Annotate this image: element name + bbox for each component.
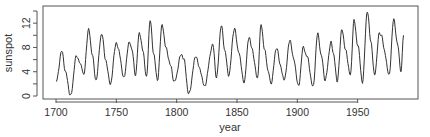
x-tick-label: 1800 (165, 106, 189, 118)
x-tick-label: 1700 (44, 106, 68, 118)
x-tick-label: 1950 (346, 106, 370, 118)
y-tick-label: 8 (20, 44, 32, 50)
x-tick-label: 1900 (286, 106, 310, 118)
x-axis-label: year (219, 121, 241, 133)
y-axis-label: sunspot (2, 34, 14, 73)
y-tick-label: 0 (20, 93, 32, 99)
sunspot-series-line (56, 12, 404, 95)
x-tick-label: 1750 (105, 106, 129, 118)
y-tick-label: 4 (20, 69, 32, 75)
sunspot-line-chart: 04812 170017501800185019001950 year suns… (0, 0, 430, 137)
x-tick-label: 1850 (225, 106, 249, 118)
x-axis: 170017501800185019001950 (44, 99, 369, 118)
y-axis: 04812 (20, 11, 37, 99)
y-tick-label: 12 (20, 17, 32, 29)
